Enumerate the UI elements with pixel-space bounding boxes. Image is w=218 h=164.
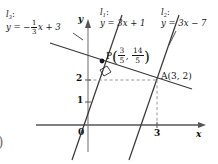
y-tick-label-2: 2 [76,73,82,83]
line-label-l1-name: l1: [100,7,145,17]
point-label-a: A(3, 2) [161,71,192,81]
line-label-l3-name: l3: [6,9,61,19]
x-axis [36,122,206,128]
origin-label: 0 [78,127,84,137]
line-label-l3-equation: y = − 1 3 x + 3 [6,20,61,36]
line-label-l2-equation: y = 3x − 7 [161,18,206,28]
fraction-one-third: 1 3 [31,20,37,36]
edge-paren-artifact: ) [0,134,3,150]
line-label-l2: l2: y = 3x − 7 [161,7,206,28]
point-p-close-paren: ) [144,48,150,66]
point-p-separator: , [126,51,129,61]
point-p-marker [100,59,105,64]
point-p-open-paren: ( [112,48,118,66]
line-label-l1: l1: y = 3x + 1 [100,7,145,28]
point-p-x-fraction: 3 5 [118,47,125,64]
guide-lines [88,80,157,125]
x-tick-label-3: 3 [154,128,160,138]
y-tick-label-1: 1 [77,95,83,105]
line-l2 [129,15,179,160]
line-label-l2-name: l2: [161,7,206,17]
y-axis [85,19,91,152]
l3-leader-line [73,33,83,40]
line-label-l1-equation: y = 3x + 1 [100,18,145,28]
coordinate-geometry-figure: l3: y = − 1 3 x + 3 l1: y = 3x + 1 l2: y… [0,0,218,164]
point-p-y-fraction: 14 5 [132,47,144,64]
point-label-p: P( 3 5 , 14 5 ) [106,47,150,66]
axis-ticks [85,80,157,128]
line-label-l3: l3: y = − 1 3 x + 3 [6,9,61,36]
y-axis-label: y [78,14,83,24]
x-axis-label: x [196,129,201,139]
line-l1 [72,15,122,160]
